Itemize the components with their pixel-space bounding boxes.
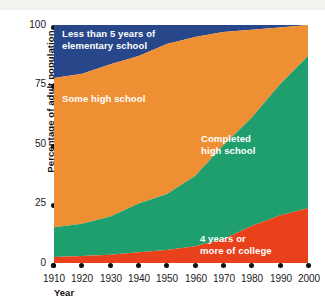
x-axis-title: Year xyxy=(54,287,74,298)
x-tick-dot-1920 xyxy=(79,263,84,268)
blue-band-label: Less than 5 years of elementary school xyxy=(62,28,155,51)
x-tick-label-1950: 1950 xyxy=(152,273,182,284)
orange-band-label: Some high school xyxy=(62,93,145,105)
x-tick-label-1920: 1920 xyxy=(67,273,97,284)
x-tick-label-1990: 1990 xyxy=(266,273,296,284)
y-tick-label-75: 75 xyxy=(18,78,46,89)
x-tick-dot-1910 xyxy=(51,263,56,268)
x-tick-label-1960: 1960 xyxy=(181,273,211,284)
x-tick-dot-1970 xyxy=(221,263,226,268)
x-tick-dot-2000 xyxy=(306,263,311,268)
chart-page: Percentage of adult population 100 75 50… xyxy=(0,0,325,306)
x-tick-dot-1980 xyxy=(249,263,254,268)
x-tick-label-1910: 1910 xyxy=(39,273,69,284)
x-tick-dot-1950 xyxy=(164,263,169,268)
red-band-label: 4 years or more of college xyxy=(200,233,272,256)
y-tick-label-25: 25 xyxy=(18,197,46,208)
plot-area: Less than 5 years of elementary school S… xyxy=(54,25,308,263)
y-tick-label-100: 100 xyxy=(18,19,46,30)
stacked-area-svg xyxy=(54,25,308,263)
y-tick-label-0: 0 xyxy=(18,257,46,268)
x-tick-dot-1960 xyxy=(193,263,198,268)
x-tick-dot-1930 xyxy=(108,263,113,268)
x-tick-label-2000: 2000 xyxy=(294,273,324,284)
x-tick-dot-1990 xyxy=(278,263,283,268)
x-tick-dot-1940 xyxy=(136,263,141,268)
x-tick-label-1970: 1970 xyxy=(209,273,239,284)
x-axis-ticks: 1910 1920 1930 1940 1950 1960 1970 1980 … xyxy=(0,270,325,286)
x-tick-label-1940: 1940 xyxy=(124,273,154,284)
y-tick-label-50: 50 xyxy=(18,138,46,149)
green-band-label: Completed high school xyxy=(201,133,255,156)
x-tick-label-1980: 1980 xyxy=(237,273,267,284)
x-tick-label-1930: 1930 xyxy=(96,273,126,284)
